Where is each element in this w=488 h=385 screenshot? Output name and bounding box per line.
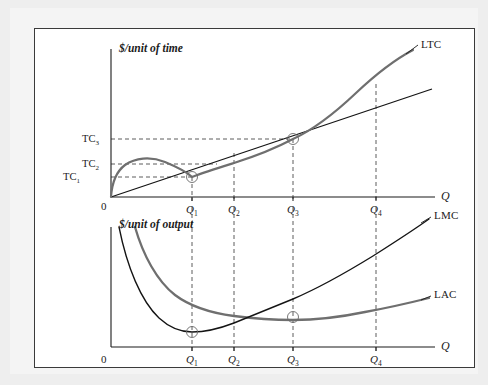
paper-background: $/unit of time Q 0 LTC TC3 TC2 TC1 Q1 Q2 bbox=[10, 8, 478, 374]
x-tick-label-q1-lower: Q1 bbox=[186, 354, 198, 368]
economics-cost-curves-diagram bbox=[35, 29, 474, 367]
q2-upper-sub: 2 bbox=[236, 209, 240, 218]
ltc-curve-render bbox=[111, 51, 413, 197]
tc3-text: TC bbox=[82, 133, 95, 144]
upper-panel bbox=[111, 45, 435, 201]
lmc-curve bbox=[119, 219, 429, 332]
upper-x-axis-symbol: Q bbox=[441, 190, 450, 202]
x-tick-label-q3-upper: Q3 bbox=[287, 204, 299, 218]
ltc-curve bbox=[111, 156, 192, 197]
ltc-visible bbox=[111, 50, 413, 197]
lmc-leader-line bbox=[421, 217, 431, 223]
curve-label-ltc: LTC bbox=[421, 39, 441, 50]
q1-lower-sub: 1 bbox=[194, 359, 198, 368]
tc3-sub: 3 bbox=[95, 139, 99, 147]
tc2-sub: 2 bbox=[95, 164, 99, 172]
q3-upper-text: Q bbox=[287, 203, 295, 215]
x-tick-label-q1-upper: Q1 bbox=[186, 204, 198, 218]
lac-curve bbox=[135, 227, 429, 320]
lower-x-axis-symbol: Q bbox=[441, 340, 450, 352]
x-tick-label-q4-lower: Q4 bbox=[370, 354, 382, 368]
ltc-curve-path bbox=[111, 52, 413, 197]
y-tick-label-tc3: TC3 bbox=[82, 134, 99, 147]
tc1-text: TC bbox=[63, 171, 76, 182]
tc2-text: TC bbox=[82, 158, 95, 169]
q1-upper-sub: 1 bbox=[194, 209, 198, 218]
q1-upper-text: Q bbox=[186, 203, 194, 215]
y-tick-label-tc1: TC1 bbox=[63, 172, 80, 185]
lower-y-axis-title: $/unit of output bbox=[119, 219, 193, 231]
figure-page: $/unit of time Q 0 LTC TC3 TC2 TC1 Q1 Q2 bbox=[0, 0, 488, 385]
q2-upper-text: Q bbox=[228, 203, 236, 215]
q1-lower-text: Q bbox=[186, 353, 194, 365]
q4-upper-sub: 4 bbox=[378, 209, 382, 218]
ray-from-origin-curve bbox=[111, 89, 432, 197]
tc1-sub: 1 bbox=[76, 177, 80, 185]
curve-label-lmc: LMC bbox=[434, 210, 458, 221]
x-tick-label-q2-upper: Q2 bbox=[228, 204, 240, 218]
x-tick-label-q2-lower: Q2 bbox=[228, 354, 240, 368]
upper-origin-label: 0 bbox=[101, 201, 107, 212]
q2-lower-sub: 2 bbox=[236, 359, 240, 368]
x-tick-label-q4-upper: Q4 bbox=[370, 204, 382, 218]
q3-lower-sub: 3 bbox=[295, 359, 299, 368]
q3-lower-text: Q bbox=[287, 353, 295, 365]
q3-upper-sub: 3 bbox=[295, 209, 299, 218]
y-tick-label-tc2: TC2 bbox=[82, 159, 99, 172]
curve-label-lac: LAC bbox=[434, 289, 457, 300]
ltc-leader-line bbox=[406, 45, 418, 54]
x-tick-label-q3-lower: Q3 bbox=[287, 354, 299, 368]
figure-frame: $/unit of time Q 0 LTC TC3 TC2 TC1 Q1 Q2 bbox=[34, 28, 475, 368]
q2-lower-text: Q bbox=[228, 353, 236, 365]
lower-origin-label: 0 bbox=[101, 354, 107, 365]
q4-upper-text: Q bbox=[370, 203, 378, 215]
upper-y-axis-title: $/unit of time bbox=[119, 43, 183, 55]
q4-lower-text: Q bbox=[370, 353, 378, 365]
q4-lower-sub: 4 bbox=[378, 359, 382, 368]
